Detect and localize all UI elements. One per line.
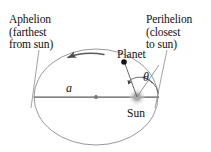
sun-label: Sun (127, 107, 145, 120)
perihelion-leader-line (155, 50, 167, 108)
semi-major-axis-label: a (66, 81, 72, 96)
aphelion-label: Aphelion (farthest from sun) (9, 13, 53, 51)
planet-label: Planet (117, 48, 146, 61)
aphelion-leader-line (31, 50, 39, 108)
perihelion-label: Perihelion (closest to sun) (146, 13, 192, 51)
true-anomaly-label: θ (143, 70, 149, 85)
ellipse-center-dot (94, 95, 98, 99)
orbit-diagram: Aphelion (farthest from sun) Perihelion … (0, 0, 211, 152)
direction-of-motion-arrow (68, 54, 104, 58)
